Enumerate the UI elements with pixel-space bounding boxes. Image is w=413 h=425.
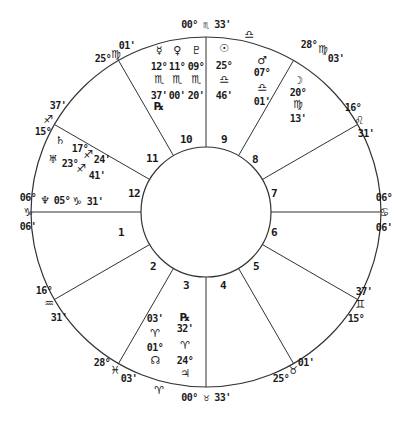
sun-icon: ☉ xyxy=(219,43,228,54)
cusp-line-6 xyxy=(262,245,357,300)
cusp-degree-c2: 16° xyxy=(36,285,53,296)
cusp-line-5 xyxy=(239,268,294,363)
node-degree: 01° xyxy=(147,342,164,353)
house-number-10: 10 xyxy=(180,134,192,145)
cusp-degree-dsc: 06° xyxy=(376,192,393,203)
cusp-minute-dsc: 06' xyxy=(376,222,393,233)
pluto-icon: ♇ xyxy=(191,45,200,56)
cusp-sign-icon-c8: ♌ xyxy=(354,115,363,126)
venus-icon: ♀ xyxy=(173,45,181,56)
cusp-minute-c6: 37' xyxy=(356,286,373,297)
sun-sign-icon: ♎ xyxy=(219,74,228,85)
mars-sign-icon: ♎ xyxy=(257,82,266,93)
cusp-degree-c8: 16° xyxy=(345,102,362,113)
cusp-sign-icon-c12: ♐ xyxy=(43,114,52,125)
cusp-minute-c12: 37' xyxy=(50,100,67,111)
cusp-sign-icon-c6: ♊ xyxy=(355,299,364,310)
cusp-minute-c9: 03' xyxy=(328,53,345,64)
moon-sign-icon: ♍ xyxy=(293,99,302,110)
house-number-1: 1 xyxy=(118,227,124,238)
house-number-2: 2 xyxy=(150,261,156,272)
cusp-sign-icon-c5: ♉ xyxy=(288,365,297,376)
chart-wheel xyxy=(0,0,413,425)
mercury-retrograde-icon: ℞ xyxy=(154,101,163,112)
venus-minute: 00' xyxy=(169,90,186,101)
venus-sign-icon: ♏ xyxy=(172,74,181,85)
pluto-minute: 20' xyxy=(188,90,205,101)
saturn-sign-icon: ♐ xyxy=(83,149,92,160)
cusp-minute-c3: 03' xyxy=(121,373,138,384)
mars-degree: 07° xyxy=(254,67,271,78)
house-number-6: 6 xyxy=(271,227,277,238)
mercury-sign-icon: ♏ xyxy=(154,74,163,85)
cusp-degree-c12: 15° xyxy=(35,126,52,137)
intercepted-sign-icon-libra-top: ♎ xyxy=(244,29,253,40)
jupiter-icon: ♃ xyxy=(180,368,189,379)
moon-minute: 13' xyxy=(290,113,307,124)
cusp-line-11 xyxy=(119,60,174,155)
cusp-sign-icon-dsc: ♋ xyxy=(379,207,388,218)
jupiter-degree: 24° xyxy=(177,355,194,366)
node-minute: 03' xyxy=(147,313,164,324)
cusp-degree-c11: 25° xyxy=(95,53,112,64)
cusp-line-8 xyxy=(262,125,357,180)
mercury-degree: 12° xyxy=(151,61,168,72)
jupiter-retrograde-icon: ℞ xyxy=(180,312,189,323)
cusp-degree-asc: 06° xyxy=(20,192,37,203)
sun-minute: 46' xyxy=(216,90,233,101)
node-icon: ☊ xyxy=(150,355,159,366)
neptune-minute: 31' xyxy=(87,196,104,207)
sun-degree: 25° xyxy=(216,60,233,71)
cusp-degree-c6: 15° xyxy=(348,313,365,324)
uranus-sign-icon: ♐ xyxy=(76,163,85,174)
cusp-line-2 xyxy=(54,245,149,300)
cusp-sign-icon-c3: ♓ xyxy=(110,365,119,376)
node-sign-icon: ♈ xyxy=(150,328,159,339)
saturn-minute: 24' xyxy=(94,154,111,165)
inner-circle xyxy=(141,147,271,277)
pluto-degree: 09° xyxy=(188,61,205,72)
cusp-minute-asc: 06' xyxy=(20,221,37,232)
venus-degree: 11° xyxy=(169,61,186,72)
cusp-sign-icon-c9: ♍ xyxy=(318,44,327,55)
jupiter-sign-icon: ♈ xyxy=(180,340,189,351)
neptune-degree: 05° xyxy=(54,195,71,206)
cusp-degree-c9: 28° xyxy=(301,39,318,50)
pluto-sign-icon: ♏ xyxy=(191,74,200,85)
moon-degree: 20° xyxy=(290,87,307,98)
saturn-icon: ♄ xyxy=(55,135,64,146)
neptune-sign-icon: ♑ xyxy=(72,196,81,207)
house-number-9: 9 xyxy=(221,134,227,145)
cusp-minute-c11: 01' xyxy=(119,40,136,51)
cusp-degree-c3: 28° xyxy=(94,357,111,368)
house-number-4: 4 xyxy=(220,280,226,291)
uranus-icon: ♅ xyxy=(48,154,57,165)
mars-minute: 01' xyxy=(254,96,271,107)
house-number-11: 11 xyxy=(146,153,158,164)
cusp-degree-c5: 25° xyxy=(273,373,290,384)
cusp-minute-c2: 31' xyxy=(51,312,68,323)
moon-icon: ☽ xyxy=(293,75,302,86)
mercury-icon: ☿ xyxy=(156,45,162,56)
house-number-12: 12 xyxy=(128,188,140,199)
cusp-sign-icon-c2: ♒ xyxy=(44,298,53,309)
house-number-5: 5 xyxy=(253,261,259,272)
mars-icon: ♂ xyxy=(257,55,266,66)
neptune-icon: ♆ xyxy=(40,195,49,206)
cusp-minute-c5: 01' xyxy=(298,357,315,368)
uranus-minute: 41' xyxy=(89,170,106,181)
cusp-label-ic: 00° ♉ 33' xyxy=(181,392,231,403)
house-number-7: 7 xyxy=(271,188,277,199)
cusp-label-mc: 00° ♏ 33' xyxy=(181,19,231,30)
house-number-3: 3 xyxy=(183,280,189,291)
intercepted-sign-icon-aries-bottom: ♈ xyxy=(154,385,163,396)
house-number-8: 8 xyxy=(252,154,258,165)
cusp-minute-c8: 31' xyxy=(358,128,375,139)
cusp-sign-icon-asc: ♑ xyxy=(23,207,32,218)
jupiter-minute: 32' xyxy=(177,323,194,334)
